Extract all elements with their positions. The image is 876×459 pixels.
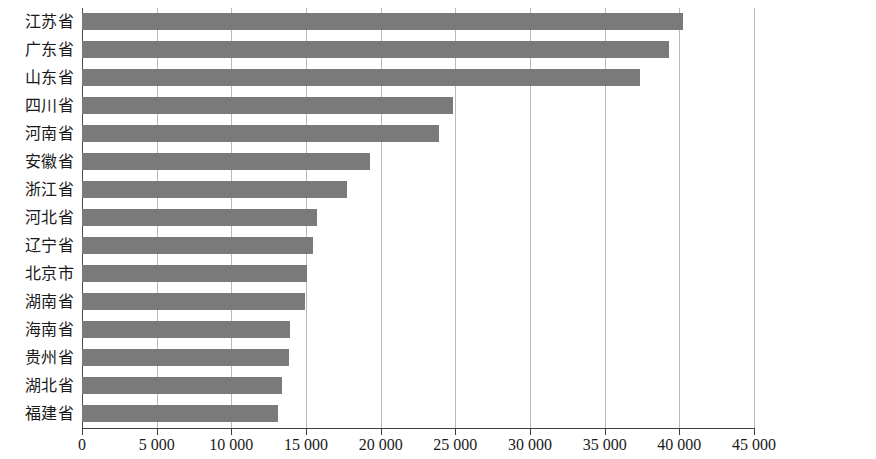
bar-row xyxy=(82,204,844,232)
bar-row xyxy=(82,64,844,92)
bar xyxy=(82,321,290,338)
x-axis-line xyxy=(82,428,754,429)
x-axis-tick-label: 20 000 xyxy=(359,436,403,454)
x-axis-tick xyxy=(679,428,680,435)
x-axis-tick-label: 10 000 xyxy=(209,436,253,454)
category-label: 河北省 xyxy=(25,204,75,232)
bar-row xyxy=(82,8,844,36)
bar-row xyxy=(82,288,844,316)
bar xyxy=(82,125,439,142)
bar xyxy=(82,293,305,310)
category-label: 湖南省 xyxy=(25,288,75,316)
x-axis-tick xyxy=(455,428,456,435)
bar xyxy=(82,349,289,366)
x-axis-tick-label: 25 000 xyxy=(433,436,477,454)
x-axis-tick xyxy=(157,428,158,435)
bar-row xyxy=(82,400,844,428)
bar xyxy=(82,41,669,58)
bar xyxy=(82,405,278,422)
x-axis-tick xyxy=(82,428,83,435)
x-axis-tick-label: 35 000 xyxy=(583,436,627,454)
bar-row xyxy=(82,316,844,344)
bar-row xyxy=(82,92,844,120)
bar xyxy=(82,209,317,226)
bar-row xyxy=(82,36,844,64)
category-label: 福建省 xyxy=(25,400,75,428)
category-label: 河南省 xyxy=(25,120,75,148)
bar-row xyxy=(82,176,844,204)
x-axis-tick-label: 40 000 xyxy=(657,436,701,454)
category-label: 辽宁省 xyxy=(25,232,75,260)
category-label: 江苏省 xyxy=(25,8,75,36)
bar xyxy=(82,153,370,170)
category-label: 贵州省 xyxy=(25,344,75,372)
x-axis-tick-label: 30 000 xyxy=(508,436,552,454)
x-axis-tick-label: 15 000 xyxy=(284,436,328,454)
x-axis-tick-label: 0 xyxy=(78,436,86,454)
x-axis-tick-label: 5 000 xyxy=(139,436,175,454)
bar xyxy=(82,97,453,114)
bar-chart: 江苏省广东省山东省四川省河南省安徽省浙江省河北省辽宁省北京市湖南省海南省贵州省湖… xyxy=(0,0,876,459)
bar xyxy=(82,69,640,86)
x-axis-tick xyxy=(605,428,606,435)
category-label: 安徽省 xyxy=(25,148,75,176)
category-label: 海南省 xyxy=(25,316,75,344)
x-axis-tick xyxy=(381,428,382,435)
bar-row xyxy=(82,260,844,288)
category-label: 山东省 xyxy=(25,64,75,92)
bar-row xyxy=(82,344,844,372)
category-label: 北京市 xyxy=(25,260,75,288)
plot-area xyxy=(82,8,844,428)
bar xyxy=(82,181,347,198)
x-axis-tick xyxy=(530,428,531,435)
bar xyxy=(82,377,282,394)
x-axis-tick xyxy=(306,428,307,435)
bar-row xyxy=(82,232,844,260)
category-label: 湖北省 xyxy=(25,372,75,400)
x-axis-tick-label: 45 000 xyxy=(732,436,776,454)
category-label: 浙江省 xyxy=(25,176,75,204)
bar-row xyxy=(82,372,844,400)
bar-row xyxy=(82,120,844,148)
bar-row xyxy=(82,148,844,176)
bar xyxy=(82,237,313,254)
x-axis-tick xyxy=(754,428,755,435)
category-axis: 江苏省广东省山东省四川省河南省安徽省浙江省河北省辽宁省北京市湖南省海南省贵州省湖… xyxy=(0,8,78,428)
category-label: 广东省 xyxy=(25,36,75,64)
bar xyxy=(82,265,307,282)
category-label: 四川省 xyxy=(25,92,75,120)
x-axis-tick xyxy=(231,428,232,435)
bar xyxy=(82,13,683,30)
